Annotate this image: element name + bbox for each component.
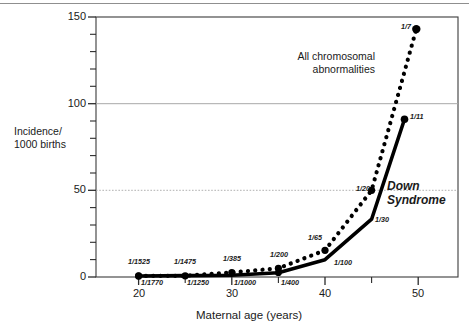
- ytick-label-0: 0: [60, 270, 86, 282]
- ytick-label-100: 100: [60, 97, 86, 109]
- point-label-chromosomal-49: 1/7: [385, 23, 411, 31]
- point-label-down-35: 1/400: [271, 279, 309, 287]
- point-label-chromosomal-20: 1/1525: [118, 258, 160, 266]
- point-label-down-20: 1/1770: [131, 279, 173, 287]
- y-axis-title-line2: 1000 births: [14, 139, 66, 151]
- xtick-label-30: 30: [219, 287, 245, 299]
- annotation-all-chromosomal-line2: abnormalities: [210, 64, 375, 76]
- point-label-down-25: 1/1250: [177, 279, 219, 287]
- ytick-label-50: 50: [60, 183, 86, 195]
- y-axis-major-ticks: [88, 17, 96, 277]
- point-label-down-40: 1/100: [326, 259, 360, 267]
- xtick-label-50: 50: [405, 287, 431, 299]
- point-label-chromosomal-35: 1/200: [260, 251, 298, 259]
- annotation-all-chromosomal-line1: All chromosomal: [210, 51, 375, 63]
- point-label-chromosomal-30: 1/385: [213, 255, 251, 263]
- y-axis-minor-ticks: [90, 34, 96, 259]
- xtick-label-40: 40: [312, 287, 338, 299]
- point-label-down-49: 1/11: [410, 113, 436, 121]
- point-label-chromosomal-45: 1/20: [340, 185, 370, 193]
- annotation-down-syndrome-line1: Down: [387, 180, 420, 193]
- chart-figure: 150 100 50 0 Incidence/ 1000 births 20 3…: [0, 0, 469, 331]
- point-label-chromosomal-40: 1/65: [298, 234, 332, 242]
- xtick-label-20: 20: [126, 287, 152, 299]
- point-label-down-30: 1/1000: [224, 279, 266, 287]
- x-axis-title: Maternal age (years): [196, 309, 302, 322]
- ytick-label-150: 150: [60, 10, 86, 22]
- point-label-down-45: 1/30: [375, 216, 405, 224]
- annotation-down-syndrome-line2: Syndrome: [387, 194, 446, 207]
- point-label-chromosomal-25: 1/1475: [164, 258, 206, 266]
- y-axis-title-line1: Incidence/: [14, 126, 62, 138]
